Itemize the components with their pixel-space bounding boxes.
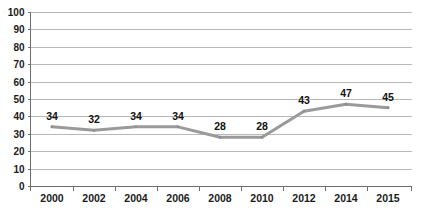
line-chart: 0102030405060708090100 20002002200420062…: [0, 0, 422, 217]
y-axis-label: 30: [13, 129, 25, 140]
data-point: [387, 106, 390, 109]
data-label: 47: [340, 87, 352, 99]
x-axis-label: 2006: [166, 192, 190, 204]
y-axis-labels-group: 0102030405060708090100: [8, 7, 25, 192]
data-point: [93, 129, 96, 132]
y-axis-label: 50: [13, 94, 25, 105]
data-label: 28: [256, 120, 268, 132]
y-axis-label: 90: [13, 24, 25, 35]
y-axis-label: 0: [19, 181, 25, 192]
data-label: 28: [214, 120, 226, 132]
x-axis-label: 2000: [40, 192, 64, 204]
x-axis-label: 2010: [250, 192, 274, 204]
gridlines-group: [31, 13, 413, 187]
data-point: [51, 125, 54, 128]
y-axis-label: 70: [13, 59, 25, 70]
y-axis-label: 40: [13, 111, 25, 122]
data-label: 34: [130, 110, 142, 122]
data-label: 34: [172, 110, 184, 122]
x-axis-label: 2014: [334, 192, 358, 204]
x-axis-label: 2002: [82, 192, 106, 204]
data-label: 32: [88, 113, 100, 125]
y-axis-label: 80: [13, 42, 25, 53]
data-point: [177, 125, 180, 128]
chart-canvas: 0102030405060708090100 20002002200420062…: [0, 0, 422, 217]
x-axis-labels-group: 200020022004200620082010201220142015: [40, 192, 400, 204]
data-point: [219, 136, 222, 139]
y-axis-label: 10: [13, 164, 25, 175]
y-axis-label: 20: [13, 146, 25, 157]
x-axis-label: 2004: [124, 192, 148, 204]
data-point: [345, 103, 348, 106]
data-labels-group: 343234342828434745: [46, 87, 394, 132]
x-axis-label: 2008: [208, 192, 232, 204]
data-point: [303, 110, 306, 113]
data-point: [135, 125, 138, 128]
y-axis-label: 60: [13, 77, 25, 88]
x-axis-label: 2012: [292, 192, 316, 204]
data-label: 34: [46, 110, 58, 122]
x-axis-label: 2015: [376, 192, 400, 204]
data-label: 45: [382, 91, 394, 103]
data-point: [261, 136, 264, 139]
data-label: 43: [298, 94, 310, 106]
y-axis-label: 100: [8, 7, 25, 18]
